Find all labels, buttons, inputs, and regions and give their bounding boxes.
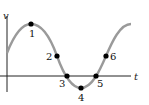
t-axis-label: t: [134, 71, 139, 82]
y-axis-label: v: [3, 10, 9, 21]
point-6-marker: [103, 53, 108, 58]
point-1-marker: [28, 21, 33, 26]
point-3-label: 3: [59, 78, 65, 89]
wave-diagram: v t 123456: [0, 0, 149, 105]
point-2-marker: [54, 53, 59, 58]
point-6-label: 6: [110, 51, 116, 62]
point-4-marker: [78, 85, 83, 90]
point-4-label: 4: [78, 92, 84, 103]
point-1-label: 1: [29, 28, 35, 39]
point-2-label: 2: [46, 51, 52, 62]
point-5-label: 5: [97, 78, 103, 89]
